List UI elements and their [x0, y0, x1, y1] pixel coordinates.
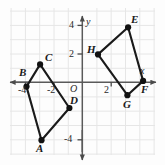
vertex-label-b: B [19, 67, 26, 78]
x-tick-neg4: -4 [18, 85, 26, 95]
vertex-label-g: G [123, 99, 131, 110]
vertex-point-e [125, 24, 131, 30]
x-tick-neg2: -2 [47, 85, 55, 95]
vertex-label-d: D [70, 95, 78, 106]
vertex-label-a: A [36, 143, 43, 154]
vertex-label-c: C [45, 52, 52, 63]
vertex-label-f: F [141, 84, 148, 95]
y-tick-4: 4 [69, 20, 74, 30]
origin-label: O [70, 84, 77, 94]
y-tick-neg4: -4 [64, 134, 72, 144]
x-tick-2: 2 [104, 85, 109, 95]
x-axis-label: x [140, 66, 144, 76]
vertex-label-e: E [131, 14, 138, 25]
y-axis-label: y [86, 17, 90, 27]
y-tick-2: 2 [69, 49, 74, 59]
vertex-point-c [37, 61, 43, 67]
coordinate-plane-figure: y x O 4 2 -4 -4 -2 2 A B C D E F G H [0, 0, 165, 165]
vertex-label-h: H [87, 44, 96, 55]
